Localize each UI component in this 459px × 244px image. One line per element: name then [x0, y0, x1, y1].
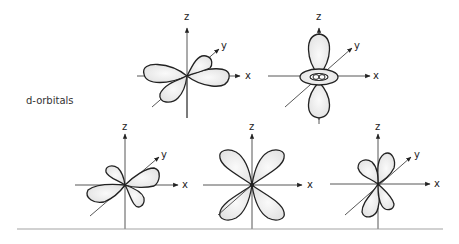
axis-label-x: x: [307, 180, 313, 190]
axis-label-y: y: [414, 150, 420, 160]
axis-label-z: z: [249, 122, 254, 132]
axis-label-x: x: [434, 179, 440, 189]
axis-label-z: z: [375, 122, 380, 132]
axis-label-x: x: [245, 71, 251, 81]
axis-label-y: y: [354, 41, 360, 51]
axis-label-z: z: [122, 122, 127, 132]
orbital-drawings: [0, 0, 459, 244]
axis-label-z: z: [316, 12, 321, 22]
axis-label-x: x: [373, 71, 379, 81]
axis-label-y: y: [161, 150, 167, 160]
axis-label-x: x: [182, 180, 188, 190]
axis-label-y: y: [221, 41, 227, 51]
side-label: d-orbitals: [26, 96, 74, 106]
axis-label-z: z: [184, 12, 189, 22]
d-orbitals-diagram: z y x z y x d-orbitals z y x z x z y x: [0, 0, 459, 244]
orbital-bottom-middle: [203, 134, 302, 229]
